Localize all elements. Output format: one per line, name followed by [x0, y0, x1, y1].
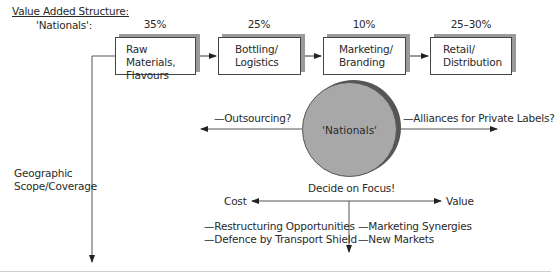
cost-point-1: —Restructuring Opportunities	[204, 220, 355, 233]
value-point-2: —New Markets	[358, 233, 434, 246]
box-retail-line2: Distribution	[443, 56, 511, 69]
percent-marketing: 10%	[319, 18, 409, 31]
box-raw-materials: Raw Materials, Flavours	[115, 37, 196, 75]
percent-bottling: 25%	[214, 18, 304, 31]
diagram-title: Value Added Structure:	[12, 5, 129, 18]
value-label: Value	[446, 195, 474, 208]
box-bottling-line2: Logistics	[235, 56, 300, 69]
cost-point-2: —Defence by Transport Shield	[204, 233, 357, 246]
outsourcing-label: —Outsourcing?	[214, 112, 291, 125]
cost-label: Cost	[224, 195, 247, 208]
geographic-label-line1: Geographic	[14, 167, 72, 180]
box-bottling: Bottling/ Logistics	[218, 37, 301, 75]
box-retail-line1: Retail/	[443, 43, 511, 56]
alliances-label: —Alliances for Private Labels?	[403, 112, 555, 125]
box-retail: Retail/ Distribution	[430, 37, 512, 75]
box-marketing: Marketing/ Branding	[323, 37, 406, 75]
nationals-label: 'Nationals'	[322, 124, 377, 136]
decide-on-focus-label: Decide on Focus!	[308, 182, 395, 195]
bottom-divider	[0, 271, 551, 272]
box-raw-materials-line2: Flavours	[126, 69, 195, 82]
nationals-circle: 'Nationals'	[302, 82, 397, 177]
geographic-scope-axis	[92, 56, 115, 262]
percent-retail: 25–30%	[426, 18, 516, 31]
box-marketing-line1: Marketing/	[339, 43, 405, 56]
box-marketing-line2: Branding	[339, 56, 405, 69]
geographic-label-line2: Scope/Coverage	[14, 180, 97, 193]
box-raw-materials-line1: Raw Materials,	[126, 43, 195, 69]
diagram-subtitle: 'Nationals':	[36, 19, 92, 32]
value-point-1: —Marketing Synergies	[358, 220, 472, 233]
percent-raw-materials: 35%	[110, 18, 200, 31]
box-bottling-line1: Bottling/	[235, 43, 300, 56]
